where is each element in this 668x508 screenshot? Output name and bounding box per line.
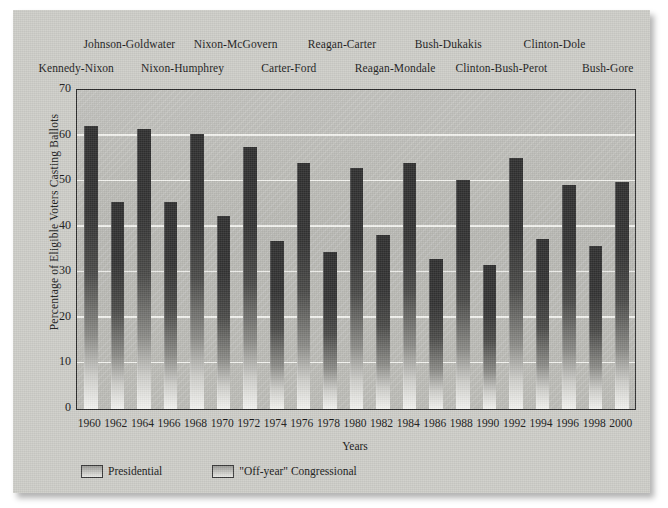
x-tick-label-1998: 1998 (583, 417, 606, 429)
legend-label: "Off-year" Congressional (239, 465, 356, 477)
annotation-1992: Clinton-Bush-Perot (455, 62, 547, 74)
legend-swatch-icon (81, 465, 103, 478)
bar-1986 (429, 259, 443, 409)
chart-page: Kennedy-NixonJohnson-GoldwaterNixon-Hump… (0, 0, 668, 508)
bar-1998 (589, 246, 603, 409)
bar-1970 (217, 216, 231, 409)
bar-1980 (350, 168, 364, 409)
x-tick-label-1996: 1996 (556, 417, 579, 429)
bar-1988 (456, 180, 470, 409)
x-tick-label-1988: 1988 (450, 417, 473, 429)
bar-1966 (164, 202, 178, 409)
bar-1960 (84, 126, 98, 409)
x-axis-title: Years (76, 440, 634, 452)
x-tick-label-1982: 1982 (370, 417, 393, 429)
gridline-70 (77, 89, 635, 90)
annotation-1976: Carter-Ford (261, 62, 316, 74)
annotation-1972: Nixon-McGovern (194, 38, 278, 50)
bar-1974 (270, 241, 284, 409)
legend-item-presidential: Presidential (81, 465, 162, 478)
x-tick-label-1966: 1966 (158, 417, 181, 429)
bar-1994 (536, 239, 550, 409)
legend-label: Presidential (108, 465, 162, 477)
x-tick-label-1972: 1972 (237, 417, 260, 429)
annotation-1968: Nixon-Humphrey (141, 62, 224, 74)
bar-1978 (323, 252, 337, 409)
x-tick-label-1964: 1964 (131, 417, 154, 429)
annotation-1980: Reagan-Carter (308, 38, 376, 50)
annotation-1984: Reagan-Mondale (355, 62, 436, 74)
x-tick-label-1960: 1960 (78, 417, 101, 429)
bar-1984 (403, 163, 417, 409)
x-tick-label-1970: 1970 (211, 417, 234, 429)
bar-1972 (243, 147, 257, 409)
annotation-1960: Kennedy-Nixon (39, 62, 114, 74)
bar-2000 (615, 182, 629, 409)
annotation-1964: Johnson-Goldwater (84, 38, 176, 50)
bar-1962 (111, 202, 125, 409)
x-tick-label-1980: 1980 (344, 417, 367, 429)
x-tick-label-1990: 1990 (476, 417, 499, 429)
x-axis-ticks: 1960196219641966196819701972197419761978… (76, 417, 634, 435)
x-tick-label-1994: 1994 (530, 417, 553, 429)
x-tick-label-1992: 1992 (503, 417, 526, 429)
annotation-2000: Bush-Gore (582, 62, 633, 74)
bar-1982 (376, 235, 390, 409)
legend-item-off-year-congressional: "Off-year" Congressional (212, 465, 356, 478)
chart-legend: Presidential"Off-year" Congressional (81, 462, 357, 480)
chart-sheet: Kennedy-NixonJohnson-GoldwaterNixon-Hump… (13, 10, 650, 493)
bar-1992 (509, 158, 523, 409)
x-tick-label-1974: 1974 (264, 417, 287, 429)
bar-1964 (137, 129, 151, 409)
x-tick-label-1976: 1976 (290, 417, 313, 429)
annotation-1996: Clinton-Dole (524, 38, 586, 50)
bar-1968 (190, 134, 204, 409)
y-axis-title: Percentage of Eligible Voters Casting Ba… (48, 77, 60, 367)
x-tick-label-1984: 1984 (397, 417, 420, 429)
x-tick-label-1986: 1986 (423, 417, 446, 429)
bar-1990 (483, 265, 497, 409)
y-tick-label-0: 0 (43, 400, 71, 415)
legend-swatch-icon (212, 465, 234, 478)
x-tick-label-1978: 1978 (317, 417, 340, 429)
x-tick-label-1968: 1968 (184, 417, 207, 429)
bar-1996 (562, 185, 576, 409)
bar-1976 (297, 163, 311, 409)
annotation-1988: Bush-Dukakis (415, 38, 482, 50)
x-tick-label-1962: 1962 (104, 417, 127, 429)
plot-area (76, 89, 636, 410)
x-tick-label-2000: 2000 (609, 417, 632, 429)
gridline-60 (77, 134, 635, 136)
